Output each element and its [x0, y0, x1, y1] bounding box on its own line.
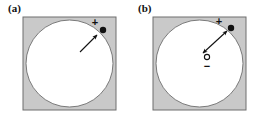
plus-sign-label: + — [216, 15, 222, 27]
white-cavity-circle — [26, 20, 113, 107]
panel-b-graphic: + − — [130, 0, 261, 125]
plus-sign-label: + — [92, 16, 98, 28]
positive-charge-dot — [228, 25, 234, 31]
panel-a-graphic: + — [0, 0, 131, 125]
panel-a: (a) + — [0, 0, 131, 125]
minus-sign-label: − — [204, 60, 210, 72]
negative-charge-open-circle — [204, 54, 209, 59]
positive-charge-dot — [100, 27, 106, 33]
panel-b: (b) + − — [130, 0, 261, 125]
figure-container: (a) + (b) — [0, 0, 261, 125]
white-cavity-circle — [156, 20, 243, 107]
